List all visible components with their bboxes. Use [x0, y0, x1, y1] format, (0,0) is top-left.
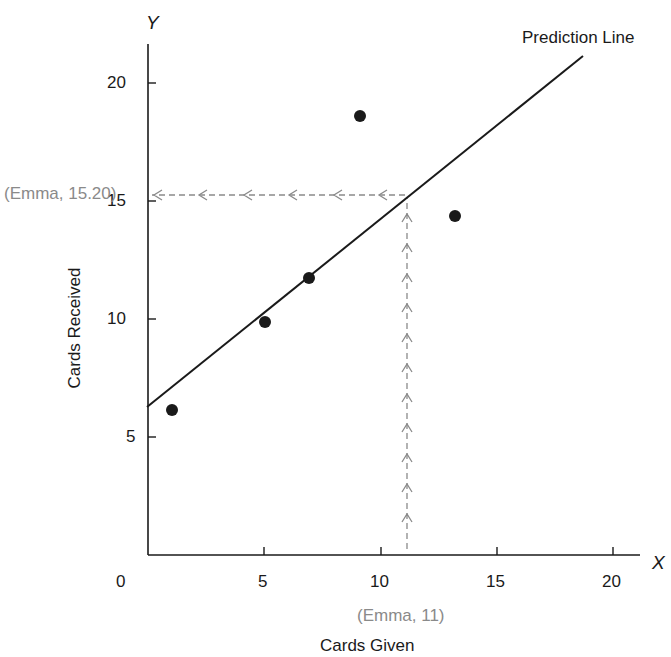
- y-tick-label-10: 10: [107, 309, 126, 329]
- emma-guides: [152, 190, 412, 549]
- emma-predicted-y-annotation: (Emma, 15.20): [4, 184, 116, 204]
- x-axis-title: Cards Given: [320, 636, 414, 656]
- prediction-line: [147, 56, 583, 407]
- scatter-chart: Y X 0 5 10 15 20 5 10 15 20 Prediction L…: [0, 0, 671, 657]
- emma-x-annotation: (Emma, 11): [357, 606, 445, 626]
- origin-label: 0: [116, 572, 125, 592]
- x-axis-letter: X: [652, 552, 665, 574]
- x-tick-label-20: 20: [602, 572, 621, 592]
- data-point: [354, 110, 366, 122]
- y-axis-letter: Y: [146, 12, 159, 34]
- data-point: [449, 210, 461, 222]
- data-point: [303, 272, 315, 284]
- x-tick-label-15: 15: [486, 572, 505, 592]
- prediction-line-label: Prediction Line: [522, 28, 634, 48]
- y-tick-label-5: 5: [126, 427, 135, 447]
- y-tick-label-20: 20: [107, 73, 126, 93]
- plot-area: [0, 0, 671, 657]
- x-tick-label-5: 5: [258, 572, 267, 592]
- y-ticks: [148, 83, 156, 437]
- data-point: [166, 404, 178, 416]
- data-point: [259, 316, 271, 328]
- x-tick-label-10: 10: [370, 572, 389, 592]
- y-axis-title: Cards Received: [65, 268, 85, 389]
- x-ticks: [264, 547, 613, 555]
- data-points: [166, 110, 461, 416]
